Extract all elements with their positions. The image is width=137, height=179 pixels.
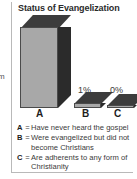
legend-key-c: C [17,153,24,163]
chart-title: Status of Evangelization [18,3,120,13]
legend-equals-c: = [24,153,31,163]
legend-item-b: B = Were evangelized but did not become … [17,133,137,152]
legend-item-c: C = Are adherents to any form of Christi… [17,153,137,172]
axis-label-b: B [82,108,89,119]
bar-a-side-face [58,27,71,108]
bar-a-front-face [20,27,58,108]
legend-item-a: A = Have never heard the gospel [17,123,137,133]
bar-a [20,14,72,108]
chart-panel: Status of Evangelization 99% 1% 0% [12,0,137,172]
legend-text-b: Were evangelized but did not become Chri… [31,133,137,152]
legend-text-a: Have never heard the gospel [31,123,137,133]
chart-legend: A = Have never heard the gospel B = Were… [17,123,137,172]
legend-equals-a: = [24,123,31,133]
axis-label-a: A [36,108,43,119]
legend-key-b: B [17,133,24,143]
category-axis: A B C [12,108,137,121]
legend-key-a: A [17,123,24,133]
plot-area: 99% 1% 0% [12,14,137,108]
legend-equals-b: = [24,133,31,143]
clipped-neighbor-text: m [0,72,5,82]
chart-figure: m Status of Evangelization 99% 1% 0% [0,0,137,179]
axis-label-c: C [114,108,121,119]
bar-c [107,14,137,108]
legend-text-c: Are adherents to any form of Christianit… [31,153,137,172]
